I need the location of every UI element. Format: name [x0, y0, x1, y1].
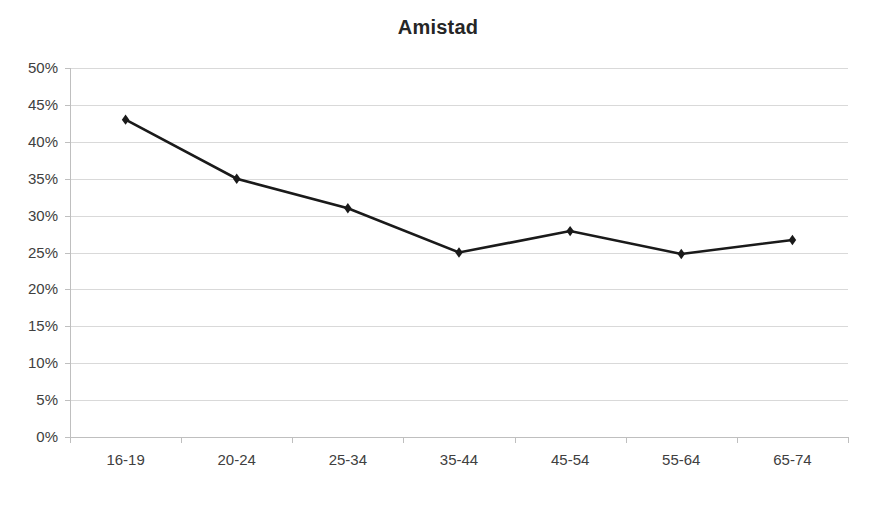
y-axis-tick-label: 10%	[28, 354, 58, 371]
x-axis-tick-label: 65-74	[773, 451, 811, 468]
x-axis-tick-label: 16-19	[106, 451, 144, 468]
data-point-marker	[344, 203, 351, 213]
x-axis-tick-label: 35-44	[440, 451, 478, 468]
x-axis-tick-label: 25-34	[329, 451, 367, 468]
data-point-marker	[455, 247, 462, 257]
data-markers-group	[122, 114, 796, 259]
series-line	[126, 120, 793, 254]
axis-ticks-group	[65, 68, 849, 443]
x-axis-tick-label: 55-64	[662, 451, 700, 468]
y-axis-tick-label: 5%	[36, 391, 58, 408]
x-axis-tick-label: 20-24	[218, 451, 256, 468]
y-axis-tick-label: 40%	[28, 133, 58, 150]
chart-container: Amistad 0%5%10%15%20%25%30%35%40%45%50% …	[0, 0, 876, 505]
x-axis-tick-label: 45-54	[551, 451, 589, 468]
y-axis-tick-label: 15%	[28, 317, 58, 334]
data-point-marker	[122, 114, 129, 124]
y-axis-tick-label: 30%	[28, 207, 58, 224]
y-axis-tick-label: 35%	[28, 170, 58, 187]
y-axis-tick-label: 0%	[36, 428, 58, 445]
data-point-marker	[566, 226, 573, 236]
y-axis-tick-label: 20%	[28, 280, 58, 297]
data-point-marker	[233, 174, 240, 184]
x-axis-labels-group: 16-1920-2425-3435-4445-5455-6465-74	[106, 451, 811, 468]
line-chart-plot: 0%5%10%15%20%25%30%35%40%45%50% 16-1920-…	[0, 0, 876, 505]
y-axis-tick-label: 50%	[28, 59, 58, 76]
y-axis-labels-group: 0%5%10%15%20%25%30%35%40%45%50%	[28, 59, 58, 445]
data-point-marker	[678, 249, 685, 259]
data-series-group	[126, 120, 793, 254]
y-axis-tick-label: 25%	[28, 244, 58, 261]
data-point-marker	[789, 235, 796, 245]
y-axis-tick-label: 45%	[28, 96, 58, 113]
